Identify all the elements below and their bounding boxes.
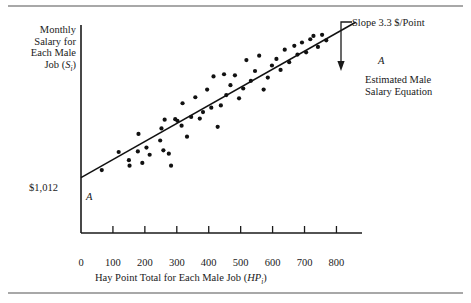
- scatter-point: [136, 132, 140, 136]
- scatter-point: [185, 135, 189, 139]
- scatter-point: [100, 168, 104, 172]
- scatter-point: [233, 73, 237, 77]
- x-axis-tick-label: 400: [194, 257, 224, 268]
- equation-caption-line2: Salary Equation: [365, 86, 432, 97]
- scatter-point: [148, 153, 152, 157]
- scatter-point: [274, 57, 278, 61]
- regression-line: [81, 22, 356, 177]
- y-axis-label: Monthly Salary for Each Male Job (Si): [31, 24, 76, 74]
- x-axis-label-paren: ): [263, 272, 267, 283]
- scatter-point: [205, 87, 209, 91]
- scatter-point: [300, 40, 304, 44]
- scatter-point: [316, 45, 320, 49]
- scatter-point: [266, 75, 270, 79]
- scatter-point: [270, 63, 274, 67]
- scatter-point: [198, 117, 202, 121]
- x-axis-label-main: Hay Point Total for Each Male Job (: [95, 272, 247, 283]
- scatter-point: [169, 164, 173, 168]
- x-axis-tick-label: 500: [226, 257, 256, 268]
- x-axis-tick-label: 0: [66, 257, 96, 268]
- scatter-point: [311, 34, 315, 38]
- scatter-point: [216, 125, 220, 129]
- scatter-point: [159, 126, 163, 130]
- scatter-point: [158, 138, 162, 142]
- scatter-point: [193, 95, 197, 99]
- x-axis-ticks: [113, 226, 337, 233]
- x-axis-tick-label: 600: [258, 257, 288, 268]
- scatter-point: [257, 54, 261, 58]
- regression-line-label-lower: A: [86, 191, 92, 202]
- scatter-point: [237, 96, 241, 100]
- scatter-point: [219, 103, 223, 107]
- scatter-point: [161, 148, 165, 152]
- scatter-point: [253, 69, 257, 73]
- scatter-point: [222, 72, 226, 76]
- scatter-point: [167, 152, 171, 156]
- y-intercept-value-label: $1,012: [29, 182, 58, 193]
- scatter-point: [127, 158, 131, 162]
- slope-annotation-arrow: [337, 22, 352, 71]
- x-axis-tick-label: 700: [290, 257, 320, 268]
- x-axis-tick-label: 300: [162, 257, 192, 268]
- scatter-point: [127, 164, 131, 168]
- scatter-point: [136, 149, 140, 153]
- x-axis-tick-label: 800: [321, 257, 351, 268]
- y-axis-label-line3: Each Male: [31, 47, 76, 58]
- figure-container: Monthly Salary for Each Male Job (Si) $1…: [0, 0, 471, 303]
- scatter-point: [201, 110, 205, 114]
- slope-annotation-text: Slope 3.3 $/Point: [352, 17, 425, 28]
- y-axis-label-line2: Salary for: [34, 36, 76, 47]
- scatter-point: [180, 101, 184, 105]
- y-axis-label-paren: ): [73, 59, 77, 70]
- equation-caption-line1: Estimated Male: [365, 74, 431, 85]
- scatter-point: [140, 161, 144, 165]
- y-axis-label-line1: Monthly: [40, 24, 76, 35]
- scatter-point: [144, 146, 148, 150]
- scatter-point: [244, 58, 248, 62]
- scatter-point: [278, 68, 282, 72]
- x-axis-label: Hay Point Total for Each Male Job (HPi): [95, 272, 267, 287]
- scatter-point: [211, 74, 215, 78]
- scatter-point: [283, 48, 287, 52]
- estimated-equation-caption: Estimated Male Salary Equation: [365, 74, 432, 98]
- x-axis-tick-label: 200: [130, 257, 160, 268]
- scatter-point: [308, 37, 312, 41]
- estimated-regression-line: [81, 22, 356, 177]
- scatter-point: [117, 150, 121, 154]
- scatter-point: [262, 87, 266, 91]
- x-axis-variable-symbol: HP: [247, 272, 261, 283]
- scatter-point: [163, 118, 167, 122]
- scatter-point: [228, 83, 232, 87]
- scatter-point: [320, 33, 324, 37]
- scatter-point: [292, 44, 296, 48]
- regression-line-label-upper: A: [378, 55, 384, 66]
- scatter-point: [209, 106, 213, 110]
- axis-lines: [81, 25, 362, 233]
- y-axis-label-line4: Job (Si): [44, 59, 76, 70]
- x-axis-tick-label: 100: [98, 257, 128, 268]
- scatter-point: [179, 124, 183, 128]
